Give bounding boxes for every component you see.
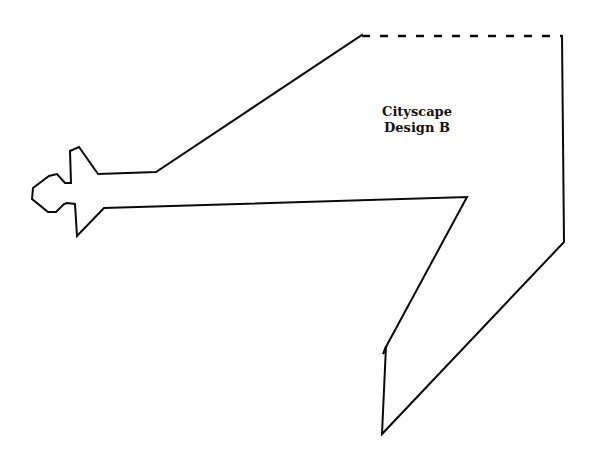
template-canvas: Cityscape Design B — [0, 0, 599, 462]
design-label-line1: Cityscape — [372, 104, 462, 120]
design-label: Cityscape Design B — [372, 104, 462, 136]
solid-cut-line — [32, 35, 564, 434]
design-label-line2: Design B — [372, 120, 462, 136]
cut-template-outline — [0, 0, 599, 462]
